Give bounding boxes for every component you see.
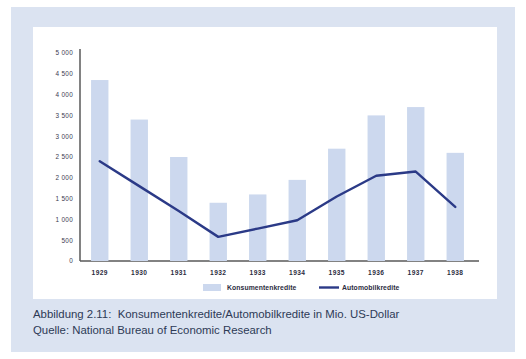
legend-label-konsumentenkredite: Konsumentenkredite (227, 284, 297, 291)
y-tick-label: 5 000 (56, 49, 74, 56)
y-tick-label: 3 500 (56, 112, 74, 119)
y-tick-label: 1 000 (56, 216, 74, 223)
bar (407, 107, 424, 261)
bar (170, 157, 187, 261)
x-tick-label: 1930 (131, 269, 147, 276)
y-tick-label: 2 000 (56, 174, 74, 181)
x-tick-label: 1938 (447, 269, 463, 276)
figure-caption: Abbildung 2.11: Konsumentenkredite/Autom… (33, 307, 495, 338)
bar (368, 115, 385, 261)
figure-panel: 5 0004 5004 0003 5003 0002 5002 0001 500… (11, 7, 515, 352)
y-tick-label: 500 (61, 237, 73, 244)
y-tick-label: 2 500 (56, 153, 74, 160)
y-axis-ticks: 5 0004 5004 0003 5003 0002 5002 0001 500… (56, 49, 74, 264)
caption-title-line: Abbildung 2.11: Konsumentenkredite/Autom… (33, 307, 495, 323)
caption-source-line: Quelle: National Bureau of Economic Rese… (33, 323, 495, 339)
y-tick-label: 1 500 (56, 195, 74, 202)
x-tick-label: 1931 (171, 269, 187, 276)
legend-swatch-konsumentenkredite (203, 284, 221, 291)
chart-legend: KonsumentenkrediteAutomobilkredite (203, 284, 400, 291)
legend-label-automobilkredite: Automobilkredite (342, 284, 400, 291)
x-tick-label: 1933 (250, 269, 266, 276)
x-tick-label: 1932 (210, 269, 226, 276)
y-tick-label: 4 500 (56, 70, 74, 77)
chart-svg: 5 0004 5004 0003 5003 0002 5002 0001 500… (33, 27, 497, 299)
y-tick-label: 3 000 (56, 133, 74, 140)
x-tick-label: 1937 (408, 269, 424, 276)
bar (328, 149, 345, 261)
x-tick-label: 1936 (368, 269, 384, 276)
x-tick-label: 1929 (92, 269, 108, 276)
bar (91, 80, 108, 261)
bar-series (91, 80, 464, 261)
chart-plot-area: 5 0004 5004 0003 5003 0002 5002 0001 500… (33, 27, 497, 299)
y-tick-label: 4 000 (56, 91, 74, 98)
chart-card: 5 0004 5004 0003 5003 0002 5002 0001 500… (33, 27, 497, 299)
x-axis-ticks: 1929193019311932193319341935193619371938 (92, 269, 464, 276)
x-tick-label: 1934 (289, 269, 305, 276)
y-tick-label: 0 (69, 257, 73, 264)
x-tick-label: 1935 (329, 269, 345, 276)
line-series (100, 161, 456, 237)
